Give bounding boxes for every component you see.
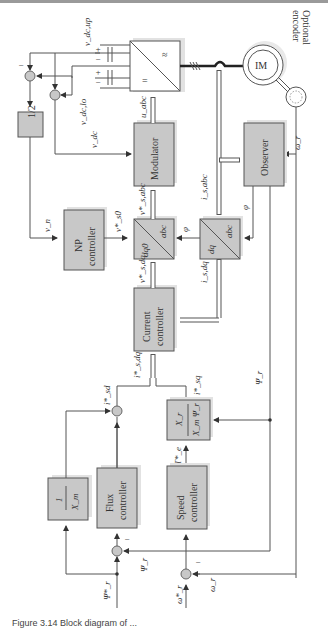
isdq-ref-label: i*_s,dq (132, 351, 142, 378)
minus-sign: − (95, 54, 101, 64)
speed-controller-label: Speed (175, 496, 186, 520)
vn-label: v_n (42, 219, 52, 232)
sum-node-flux (112, 546, 122, 556)
vdc-lo-label: v_dc,lo (78, 98, 88, 125)
np-controller-label: NP (73, 239, 84, 252)
vsdq-ref-label: v*_s,dq (137, 255, 147, 283)
vsabc-ref-label: v*_s,abc (137, 183, 147, 215)
observer-block: Observer (244, 120, 287, 186)
current-controller-label: controller (154, 306, 165, 346)
encoder (286, 87, 306, 107)
observer-label: Observer (259, 139, 270, 176)
dq0-abc-transform-block: dq0 abc (134, 216, 177, 259)
current-controller-label: Current (141, 311, 152, 342)
inverse-xm-block: 1 X_m (48, 475, 92, 520)
isq-ref-label: i*_sq (192, 375, 202, 395)
speed-controller-label: controller (188, 482, 199, 522)
induction-motor: IM (243, 41, 287, 85)
minus-sign: − (195, 557, 201, 567)
ac-symbol: ≈ (162, 49, 168, 60)
power-converter: = ≈ (130, 38, 185, 92)
psi-r-observer-label: Ψ_r (254, 370, 264, 385)
dc-symbol: = (142, 75, 148, 86)
dq-label: dq (206, 245, 216, 255)
half-gain-block: 1/2 (18, 105, 43, 137)
figure-caption: Figure 3.14 Block diagram of ... (12, 618, 137, 628)
phi-label: φ (240, 205, 250, 210)
phi-label: φ (180, 227, 190, 232)
np-controller-block: NP controller (64, 207, 107, 270)
sum-node-isd (112, 406, 122, 416)
vdc-label: v_dc (89, 131, 99, 148)
block-diagram: + − + − = ≈ IM Optional encoder ω_r − (0, 0, 328, 629)
sum-node-vdc (50, 90, 60, 100)
isabc-label: i_s,abc (199, 174, 209, 200)
psi-r-ref-label: Ψ*_r (102, 581, 112, 600)
torque-ref-label: T*_e (173, 447, 183, 465)
vdc-up-label: v_dc,up (82, 17, 92, 46)
psi-r-fb-label: Ψ_r (139, 557, 149, 572)
current-controller-block: Current controller (134, 285, 177, 351)
vs0-ref-label: v*_s0 (113, 211, 123, 232)
flux-controller-label: controller (117, 480, 128, 520)
isd-ref-label: i*_sd (102, 385, 112, 405)
flux-controller-block: Flux controller (97, 465, 141, 528)
sum-node-vn (25, 71, 35, 81)
omega-r-ref-label: ω*_r (174, 585, 184, 604)
minus-sign: − (95, 77, 101, 87)
abc-label: abc (224, 225, 234, 238)
xr-label: X_r (174, 412, 184, 427)
xm-label: X_m (70, 493, 80, 511)
omega-r-fb-label: ω_r (207, 577, 217, 592)
modulator-label: Modulator (149, 137, 160, 180)
uabc-label: u_abc (138, 96, 148, 118)
plus-sign: + (95, 67, 101, 77)
modulator-block: Modulator (134, 120, 177, 186)
xm-psir-label: X_m Ψ_r (191, 402, 201, 437)
dq-abc-transform-block: dq abc (200, 216, 243, 259)
minus-sign: − (124, 534, 130, 544)
dq0-label: dq0 (140, 243, 150, 257)
minus-sign: − (18, 60, 24, 70)
motor-label: IM (255, 60, 267, 71)
flux-controller-label: Flux (104, 494, 115, 512)
encoder-label: encoder (291, 10, 302, 42)
np-controller-label: controller (86, 226, 97, 266)
half-gain-label: 1/2 (26, 105, 37, 118)
omega-r-observer-label: ω_r (292, 135, 302, 150)
speed-controller-block: Speed controller (167, 463, 210, 529)
dc-link-capacitors: + − + − (95, 44, 130, 88)
torque-to-iq-block: X_r X_m Ψ_r (167, 397, 213, 440)
sum-node-speed (181, 569, 191, 579)
abc-label: abc (158, 225, 168, 238)
one-label: 1 (54, 498, 64, 503)
isdq-label: i_s,dq (199, 261, 209, 283)
